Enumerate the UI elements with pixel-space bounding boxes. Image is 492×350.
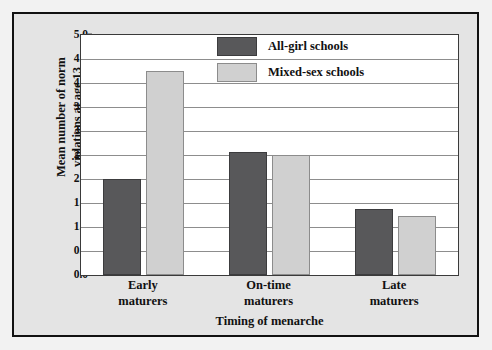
x-axis-tick-label-line-2: maturers: [370, 293, 419, 309]
bar: [146, 71, 184, 275]
legend-label: Mixed-sex schools: [268, 65, 364, 80]
x-axis-tick-label-line-2: maturers: [118, 293, 167, 309]
x-axis-tick-label-line-1: On-time: [246, 278, 290, 292]
bar: [398, 216, 436, 275]
chart-panel: Mean number of norm violations at age 13…: [12, 12, 479, 337]
gridline: [81, 107, 458, 108]
legend-swatch: [217, 63, 257, 82]
x-axis-tick-label-line-2: maturers: [244, 293, 293, 309]
x-axis-title: Timing of menarche: [80, 314, 459, 329]
x-axis-tick-labels: EarlymaturersOn-timematurersLatematurers: [80, 277, 459, 311]
bar: [103, 179, 141, 275]
x-axis-tick-label: Latematurers: [370, 277, 419, 310]
legend-item: All-girl schools: [217, 33, 397, 59]
legend-swatch: [217, 37, 257, 56]
legend-item: Mixed-sex schools: [217, 59, 397, 85]
x-axis-tick-label-line-1: Early: [128, 278, 158, 292]
legend: All-girl schoolsMixed-sex schools: [217, 33, 397, 85]
x-axis-tick-label-line-1: Late: [382, 278, 406, 292]
bar: [272, 155, 310, 275]
x-axis-tick-label: On-timematurers: [244, 277, 293, 310]
legend-label: All-girl schools: [268, 39, 348, 54]
figure: Mean number of norm violations at age 13…: [0, 0, 492, 350]
gridline: [81, 131, 458, 132]
bar: [229, 152, 267, 275]
gridline: [81, 155, 458, 156]
bar: [355, 209, 393, 275]
x-axis-tick-label: Earlymaturers: [118, 277, 167, 310]
